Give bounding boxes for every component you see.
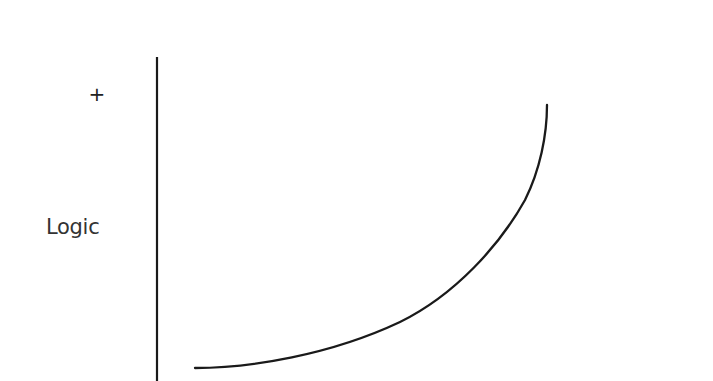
diagram-svg — [0, 0, 713, 381]
diagram-canvas: + Logic — [0, 0, 713, 381]
y-axis-label: Logic — [46, 212, 99, 242]
growth-curve — [195, 105, 547, 368]
y-axis-plus-marker: + — [87, 82, 107, 106]
